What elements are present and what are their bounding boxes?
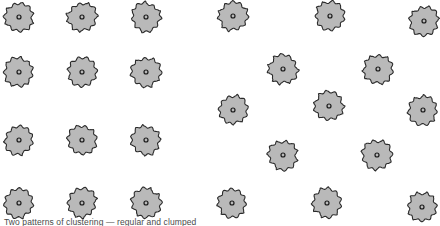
cluster-blob-marker [311, 187, 343, 219]
cluster-blob-marker [407, 94, 439, 126]
cluster-blob-marker [66, 56, 98, 88]
cluster-blob-marker [408, 5, 440, 37]
cluster-blob-marker [3, 56, 35, 88]
cluster-blob-marker [130, 187, 162, 219]
figure-root: Two patterns of clustering — regular and… [0, 0, 440, 226]
cluster-blob-marker [267, 53, 299, 85]
cluster-blob-marker [361, 139, 393, 171]
cluster-blob-marker [3, 1, 35, 33]
scatter-plot-area [0, 0, 440, 226]
cluster-blob-marker [66, 124, 98, 156]
cluster-blob-marker [130, 124, 162, 156]
cluster-blob-marker [314, 0, 346, 32]
cluster-blob-marker [313, 90, 345, 122]
cluster-blob-marker [130, 56, 162, 88]
cluster-blob-marker [362, 53, 394, 85]
cluster-blob-marker [217, 94, 249, 126]
cluster-blob-marker [130, 1, 162, 33]
cluster-blob-marker [216, 187, 248, 219]
cluster-blob-marker [3, 124, 35, 156]
figure-caption: Two patterns of clustering — regular and… [4, 217, 434, 226]
cluster-blob-marker [3, 187, 35, 219]
cluster-blob-marker [267, 139, 299, 171]
cluster-blob-marker [66, 1, 98, 33]
cluster-blob-marker [66, 187, 98, 219]
cluster-blob-marker [217, 0, 249, 32]
